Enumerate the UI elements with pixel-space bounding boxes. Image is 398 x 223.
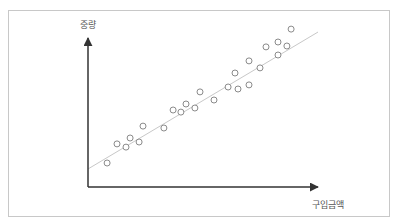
data-point — [225, 84, 231, 90]
data-point — [127, 135, 133, 141]
data-point — [123, 144, 129, 150]
data-point — [161, 125, 167, 131]
data-point — [275, 52, 281, 58]
data-point — [104, 160, 110, 166]
data-point — [246, 58, 252, 64]
data-point — [192, 105, 198, 111]
data-points — [104, 26, 294, 166]
data-point — [183, 101, 189, 107]
trend-line — [88, 32, 318, 169]
regression-line — [88, 32, 318, 169]
data-point — [178, 109, 184, 115]
data-point — [235, 86, 241, 92]
x-axis-label: 구입금액 — [312, 199, 344, 210]
y-axis-label: 중량 — [80, 19, 96, 30]
data-point — [114, 141, 120, 147]
data-point — [232, 70, 238, 76]
data-point — [170, 107, 176, 113]
data-point — [140, 123, 146, 129]
data-point — [246, 82, 252, 88]
data-point — [284, 43, 290, 49]
data-point — [211, 97, 217, 103]
data-point — [257, 65, 263, 71]
scatter-chart: 중량 구입금액 — [0, 0, 398, 223]
data-point — [263, 44, 269, 50]
data-point — [275, 39, 281, 45]
data-point — [136, 139, 142, 145]
data-point — [197, 89, 203, 95]
data-point — [288, 26, 294, 32]
